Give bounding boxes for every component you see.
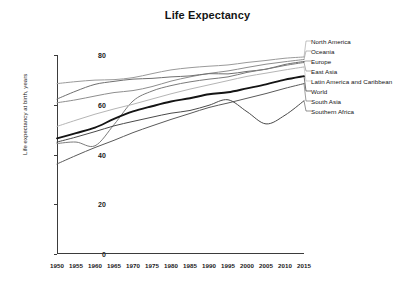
leader-line-latin-america-and-caribbean [304, 67, 311, 81]
x-tick-1955: 1955 [69, 262, 83, 269]
x-tick-1975: 1975 [145, 262, 159, 269]
legend-label-east-asia: East Asia [311, 68, 337, 75]
legend-label-latin-america-and-caribbean: Latin America and Caribbean [311, 78, 392, 85]
x-tick-1950: 1950 [50, 262, 64, 269]
leader-line-southern-africa [304, 101, 311, 111]
x-tick-2015: 2015 [297, 262, 311, 269]
leader-line-europe [304, 61, 311, 62]
leader-line-world [304, 76, 311, 91]
leader-line-east-asia [304, 63, 311, 72]
x-tick-1965: 1965 [107, 262, 121, 269]
y-tick-mark-0 [54, 254, 57, 255]
x-tick-1980: 1980 [164, 262, 178, 269]
x-tick-2000: 2000 [240, 262, 254, 269]
x-tick-2005: 2005 [259, 262, 273, 269]
leader-line-north-america [304, 41, 311, 57]
series-line-southern-africa [57, 100, 304, 142]
x-tick-1985: 1985 [183, 262, 197, 269]
x-tick-1960: 1960 [88, 262, 102, 269]
legend-label-oceania: Oceania [311, 48, 334, 55]
leader-line-south-asia [304, 84, 311, 101]
series-lines [57, 55, 304, 254]
leader-line-oceania [304, 51, 311, 60]
legend-label-europe: Europe [311, 58, 331, 65]
x-tick-1990: 1990 [202, 262, 216, 269]
x-tick-1995: 1995 [221, 262, 235, 269]
y-axis-label: Life expectancy at birth, years [22, 74, 28, 155]
legend-label-world: World [311, 88, 327, 95]
series-line-east-asia [57, 62, 304, 146]
chart-container: Life Expectancy Life expectancy at birth… [0, 0, 415, 288]
x-tick-2010: 2010 [278, 262, 292, 269]
legend-label-southern-africa: Southern Africa [311, 108, 354, 115]
x-tick-1970: 1970 [126, 262, 140, 269]
series-line-oceania [57, 59, 304, 102]
plot-area [57, 55, 304, 254]
series-line-world [57, 76, 304, 138]
chart-title: Life Expectancy [0, 9, 415, 21]
legend-label-south-asia: South Asia [311, 98, 341, 105]
series-line-north-america [57, 57, 304, 84]
legend-label-north-america: North America [311, 38, 351, 45]
